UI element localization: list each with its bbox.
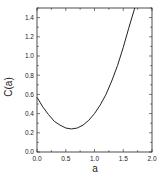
svg-text:2.0: 2.0: [147, 155, 156, 162]
data-curve: [37, 8, 135, 129]
svg-text:0.4: 0.4: [25, 110, 34, 117]
svg-text:0.0: 0.0: [32, 155, 41, 162]
svg-text:0.5: 0.5: [61, 155, 70, 162]
svg-text:1.0: 1.0: [90, 155, 99, 162]
svg-text:0.0: 0.0: [25, 148, 34, 155]
plot-frame: [37, 8, 152, 152]
tick-labels: 0.00.51.01.52.00.00.20.40.60.81.01.21.4: [25, 14, 157, 162]
svg-text:0.8: 0.8: [25, 72, 34, 79]
svg-text:1.5: 1.5: [119, 155, 128, 162]
y-axis-label: C(a): [3, 77, 14, 96]
svg-text:0.6: 0.6: [25, 91, 34, 98]
axis-ticks: [37, 8, 152, 152]
svg-text:1.2: 1.2: [25, 33, 34, 40]
svg-text:0.2: 0.2: [25, 129, 34, 136]
svg-text:1.4: 1.4: [25, 14, 34, 21]
x-axis-label: a: [92, 163, 98, 174]
chart: 0.00.51.01.52.00.00.20.40.60.81.01.21.4 …: [0, 0, 165, 182]
svg-text:1.0: 1.0: [25, 52, 34, 59]
